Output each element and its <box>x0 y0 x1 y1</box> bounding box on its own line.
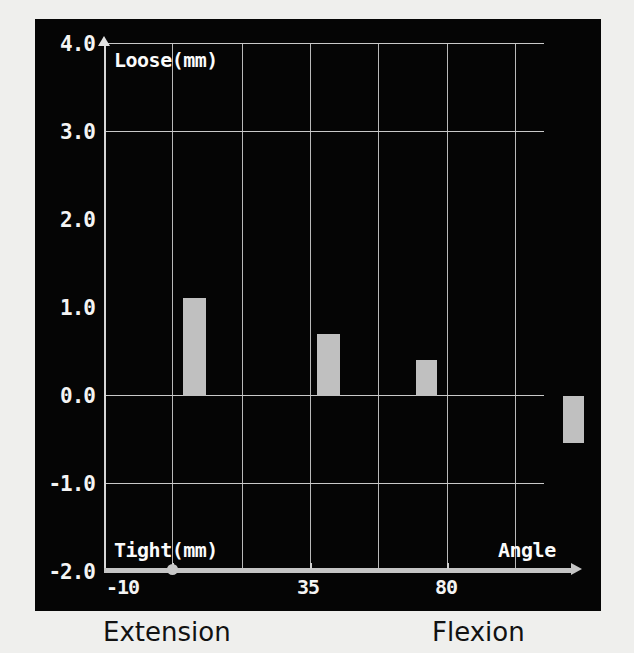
y-tick-label-neg2: -2.0 <box>39 560 95 584</box>
caption-flexion: Flexion <box>432 617 525 647</box>
bar-4 <box>563 396 584 443</box>
bar-2 <box>317 334 340 396</box>
y-tick-label-neg1: -1.0 <box>39 472 95 496</box>
gridline-vertical <box>447 43 448 571</box>
y-tick-label-3: 3.0 <box>39 120 95 144</box>
x-axis-label-angle: Angle <box>498 538 556 562</box>
gridline-vertical <box>378 43 379 571</box>
gridline-vertical <box>242 43 243 571</box>
y-axis-arrow-icon <box>98 36 110 46</box>
gridline-vertical <box>515 43 516 571</box>
bar-1 <box>183 298 206 396</box>
x-tick-mark <box>447 563 449 569</box>
gridline-horizontal-3 <box>104 131 544 132</box>
x-tick-mark <box>310 563 312 569</box>
gridline-horizontal-4 <box>104 43 544 44</box>
chart-panel: 4.0 3.0 2.0 1.0 0.0 -1.0 -2.0 -10 35 80 … <box>35 19 601 611</box>
caption-extension: Extension <box>103 617 231 647</box>
y-tick-label-0: 0.0 <box>39 384 95 408</box>
y-axis-label-tight: Tight(mm) <box>114 538 218 562</box>
x-tick-label-35: 35 <box>297 575 319 599</box>
bar-3 <box>416 360 437 396</box>
y-axis-line <box>104 43 106 571</box>
y-tick-label-4: 4.0 <box>39 32 95 56</box>
x-tick-label-80: 80 <box>435 575 457 599</box>
x-tick-label-neg10: -10 <box>106 575 139 599</box>
gridline-vertical <box>310 43 311 571</box>
page-root: 4.0 3.0 2.0 1.0 0.0 -1.0 -2.0 -10 35 80 … <box>0 0 634 653</box>
y-axis-label-loose: Loose(mm) <box>114 48 218 72</box>
plot-frame: 4.0 3.0 2.0 1.0 0.0 -1.0 -2.0 -10 35 80 … <box>35 19 601 611</box>
y-tick-label-1: 1.0 <box>39 296 95 320</box>
y-tick-label-2: 2.0 <box>39 208 95 232</box>
x-axis-arrow-icon <box>571 563 582 575</box>
gridline-vertical <box>172 43 173 571</box>
x-axis-marker-dot <box>167 564 178 575</box>
gridline-horizontal-neg1 <box>104 483 544 484</box>
